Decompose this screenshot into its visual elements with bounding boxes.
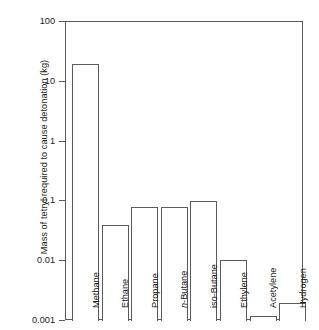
y-axis-tick-label: 10 (45, 76, 55, 86)
y-axis-tick-label: 0.001 (32, 315, 55, 325)
y-axis-tick-label: 100 (40, 16, 55, 26)
chart-figure: Mass of tetryl required to cause detonat… (0, 0, 319, 330)
y-axis-tick-label: 0.1 (42, 195, 55, 205)
bar[interactable]: Ethane (102, 225, 129, 321)
bar-label: Ethylene (239, 272, 249, 308)
plot-area: MethaneEthanePropanen-Butaneiso-ButaneEt… (65, 21, 303, 320)
bar[interactable]: Acetylene (250, 316, 277, 321)
bar[interactable]: Methane (72, 64, 99, 321)
y-axis-tick-mark (59, 320, 65, 321)
y-axis-tick-label: 1 (50, 136, 55, 146)
bar-label: Ethane (120, 279, 130, 308)
bar-label: iso-Butane (209, 264, 219, 308)
bar[interactable]: iso-Butane (190, 201, 217, 321)
bar[interactable]: Propane (131, 207, 158, 321)
bar-label: Methane (91, 272, 101, 308)
bar[interactable]: Ethylene (220, 260, 247, 321)
bar-label: n-Butane (179, 271, 189, 308)
bar-label: Propane (150, 273, 160, 308)
y-axis-tick-label: 0.01 (37, 255, 55, 265)
bar-label: Acetylene (268, 268, 278, 308)
bar[interactable]: Hydrogen (279, 303, 306, 321)
bar-label: Hydrogen (298, 268, 308, 308)
y-axis-title: Mass of tetryl required to cause detonat… (39, 27, 49, 287)
bar[interactable]: n-Butane (161, 207, 188, 321)
